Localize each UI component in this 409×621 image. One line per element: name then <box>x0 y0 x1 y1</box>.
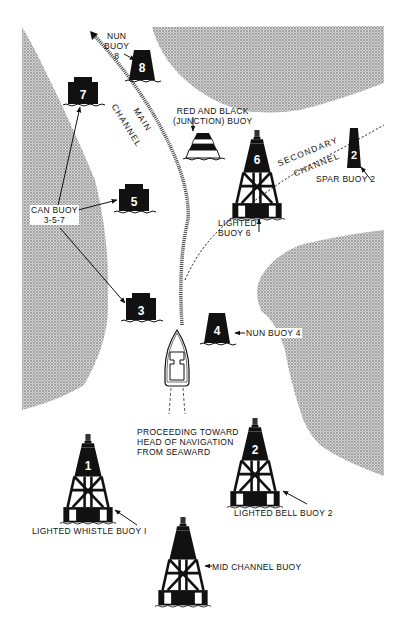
boat <box>165 330 189 414</box>
spar-buoy-2-label: SPAR BUOY 2 <box>316 174 375 184</box>
svg-text:8: 8 <box>139 61 146 75</box>
svg-text:7: 7 <box>80 88 87 102</box>
lighted-whistle-buoy-1-label: LIGHTED WHISTLE BUOY I <box>32 526 147 536</box>
svg-text:6: 6 <box>254 153 261 167</box>
junction-buoy-label: RED AND BLACK (JUNCTION) BUOY <box>173 106 253 126</box>
land-right <box>257 230 384 476</box>
label-line: 8 <box>104 51 129 61</box>
svg-text:2: 2 <box>351 149 357 161</box>
land-top-right <box>152 26 384 113</box>
caption-line: PROCEEDING TOWARD <box>137 427 239 437</box>
lighted-whistle-buoy-1: 1 <box>60 434 116 524</box>
nun-buoy-8: 8 <box>125 50 161 82</box>
svg-text:4: 4 <box>214 324 221 338</box>
label-line: BUOY <box>104 41 129 51</box>
lighted-buoy-6: 6 <box>229 130 285 220</box>
proceeding-caption: PROCEEDING TOWARD HEAD OF NAVIGATION FRO… <box>137 427 239 457</box>
svg-text:5: 5 <box>131 195 138 209</box>
can-buoy-label: CAN BUOY 3-5-7 <box>30 205 79 225</box>
spar-buoy-2: 2 <box>347 128 361 168</box>
can-buoy-3: 3 <box>121 293 163 322</box>
nun-buoy-4: 4 <box>200 313 236 345</box>
can-buoy-7: 7 <box>63 77 105 106</box>
junction-buoy <box>183 133 225 160</box>
can-buoy-5: 5 <box>114 184 156 213</box>
lighted-bell-buoy-2-label: LIGHTED BELL BUOY 2 <box>234 508 333 518</box>
mid-channel-buoy-label: MID CHANNEL BUOY <box>212 562 302 572</box>
svg-text:2: 2 <box>252 443 259 457</box>
svg-text:3: 3 <box>138 304 145 318</box>
caption-line: HEAD OF NAVIGATION <box>137 437 239 447</box>
caption-line: FROM SEAWARD <box>137 447 239 457</box>
mid-channel-buoy <box>155 517 211 607</box>
buoy-diagram: 7 5 3 8 4 2 6 1 2 <box>0 0 409 621</box>
label-line: NUN <box>104 31 129 41</box>
nun-buoy-8-label: NUN BUOY 8 <box>104 31 129 61</box>
label-line: LIGHTED <box>218 218 257 228</box>
lighted-buoy-6-label: LIGHTED BUOY 6 <box>218 218 257 238</box>
label-line: BUOY 6 <box>218 228 257 238</box>
main-channel-arrowhead <box>90 31 98 40</box>
label-line: CAN BUOY <box>31 205 78 215</box>
label-line: (JUNCTION) BUOY <box>173 116 253 126</box>
label-line: RED AND BLACK <box>173 106 253 116</box>
label-line: 3-5-7 <box>31 215 78 225</box>
svg-text:1: 1 <box>85 459 92 473</box>
nun-buoy-4-label: NUN BUOY 4 <box>245 328 302 338</box>
